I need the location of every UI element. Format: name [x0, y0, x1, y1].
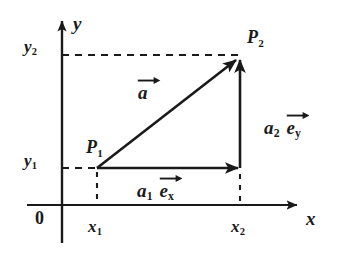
component-x-scalar: a1: [137, 180, 152, 201]
origin-label: 0: [35, 209, 44, 227]
tick-label-x2-subscript: 2: [240, 226, 245, 237]
basis-vector-ey-symbol: ey: [286, 116, 300, 137]
tick-label-y2-subscript: 2: [32, 46, 37, 57]
tick-label-x1: x1: [88, 218, 102, 235]
tick-label-y1-subscript: 1: [32, 160, 37, 171]
vector-a-symbol: a: [138, 81, 148, 102]
vector-label-a: a: [138, 81, 148, 102]
basis-vector-ey-subscript: y: [295, 127, 301, 140]
x-axis-label: x: [306, 209, 316, 228]
basis-vector-ex-subscript: x: [168, 190, 174, 203]
component-y-scalar: a2: [264, 117, 279, 138]
point-label-p2-subscript: 2: [258, 37, 264, 49]
tick-label-y1: y1: [24, 152, 37, 169]
tick-label-x1-subscript: 1: [97, 226, 102, 237]
tick-label-x2: x2: [231, 218, 245, 235]
point-label-p1-subscript: 1: [97, 147, 103, 159]
vector-label-a2-ey: a2 ey: [264, 116, 301, 137]
vector-a-arrow: [97, 60, 236, 168]
point-label-p1: P1: [86, 138, 103, 156]
basis-vector-ex-symbol: ex: [159, 179, 173, 200]
component-x-scalar-subscript: 1: [147, 190, 153, 203]
point-label-p2: P2: [247, 28, 264, 46]
tick-label-y2: y2: [24, 38, 37, 55]
component-y-scalar-subscript: 2: [274, 127, 280, 140]
y-axis-label: y: [73, 14, 81, 33]
vector-label-a1-ex: a1 ex: [137, 179, 174, 200]
